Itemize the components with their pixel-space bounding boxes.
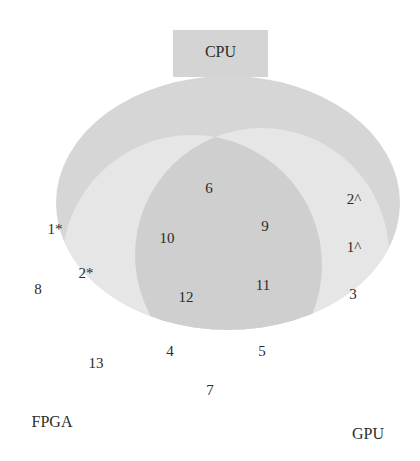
region-label-4: 4 xyxy=(166,344,174,359)
cpu-label-box: CPU xyxy=(173,30,268,77)
region-label-13: 13 xyxy=(89,356,104,371)
cpu-label: CPU xyxy=(205,43,236,61)
region-label-3: 3 xyxy=(349,287,357,302)
region-label-11: 11 xyxy=(256,278,270,293)
region-label-1-star: 1* xyxy=(48,222,63,237)
region-label-6: 6 xyxy=(205,181,213,196)
region-label-2-star: 2* xyxy=(79,266,94,281)
region-label-8: 8 xyxy=(34,282,42,297)
region-label-1-caret: 1^ xyxy=(347,240,362,255)
region-label-10: 10 xyxy=(160,231,175,246)
region-label-5: 5 xyxy=(258,344,266,359)
region-label-7: 7 xyxy=(206,383,214,398)
region-label-2-caret: 2^ xyxy=(347,192,362,207)
fpga-label: FPGA xyxy=(32,414,73,430)
region-label-9: 9 xyxy=(261,219,269,234)
region-label-12: 12 xyxy=(179,290,194,305)
gpu-label: GPU xyxy=(352,426,384,442)
